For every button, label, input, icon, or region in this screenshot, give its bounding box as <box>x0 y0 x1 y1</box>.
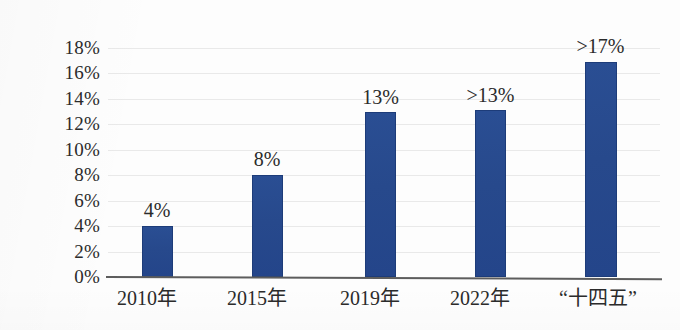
x-axis-tick-2015: 2015年 <box>207 287 307 309</box>
x-axis-tick-2022: 2022年 <box>430 287 530 309</box>
bar-label-2015: 8% <box>227 149 307 169</box>
plot-area: 4% 8% 13% >13% >17% <box>108 48 660 277</box>
bar-chart: 18% 16% 14% 12% 10% 8% 6% 4% 2% 0% 4% 8%… <box>0 0 680 330</box>
x-axis-tick-2010: 2010年 <box>97 287 197 309</box>
bar-2019 <box>365 112 396 277</box>
y-axis-tick-0: 0% <box>0 267 100 286</box>
y-axis-tick-12: 12% <box>0 114 100 133</box>
x-axis-labels: 2010年 2015年 2019年 2022年 “十四五” <box>0 287 680 327</box>
bar-2022 <box>475 110 506 277</box>
bar-label-2019: 13% <box>338 87 423 107</box>
bar-2010 <box>142 226 173 277</box>
x-axis-tick-14th-five-year-plan: “十四五” <box>538 287 658 309</box>
y-axis-tick-16: 16% <box>0 63 100 82</box>
y-axis-tick-8: 8% <box>0 165 100 184</box>
bar-series: 4% 8% 13% >13% >17% <box>108 48 660 277</box>
bar-2015 <box>252 175 283 277</box>
y-axis-tick-2: 2% <box>0 242 100 261</box>
y-axis-tick-10: 10% <box>0 140 100 159</box>
y-axis-tick-14: 14% <box>0 89 100 108</box>
y-axis-labels: 18% 16% 14% 12% 10% 8% 6% 4% 2% 0% <box>0 0 100 330</box>
y-axis-tick-4: 4% <box>0 216 100 235</box>
bar-label-2022: >13% <box>448 85 533 105</box>
y-axis-tick-18: 18% <box>0 38 100 57</box>
bar-label-2010: 4% <box>117 200 197 220</box>
y-axis-tick-6: 6% <box>0 191 100 210</box>
bar-label-14th-five-year-plan: >17% <box>558 36 643 56</box>
x-axis-tick-2019: 2019年 <box>320 287 420 309</box>
bar-14th-five-year-plan <box>585 62 617 277</box>
